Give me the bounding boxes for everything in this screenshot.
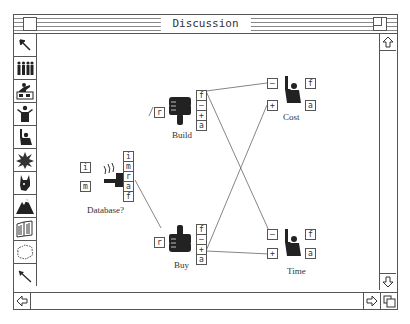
vertical-scrollbar[interactable]	[379, 34, 397, 290]
donkey-icon	[15, 174, 35, 192]
thumbs-up-icon	[167, 224, 193, 254]
shrug-figure-tool[interactable]	[14, 103, 36, 126]
open-book-icon	[15, 220, 35, 238]
scroll-right-button[interactable]	[363, 293, 380, 309]
mountain-tool[interactable]	[14, 195, 36, 218]
diagram-canvas[interactable]: i m i m r a f Database? r f – + a Build	[37, 34, 379, 292]
presenter-tool[interactable]	[14, 80, 36, 103]
raised-hand-figure-icon	[282, 229, 304, 257]
mountain-icon	[15, 197, 35, 215]
database-box-i[interactable]: i	[80, 162, 91, 173]
title-bar[interactable]: Discussion	[14, 15, 397, 34]
database-box-m[interactable]: m	[80, 181, 91, 192]
tool-palette	[14, 34, 37, 286]
database-box-f-out[interactable]: f	[123, 191, 134, 202]
build-box-r[interactable]: r	[154, 107, 165, 118]
buy-box-a[interactable]: a	[196, 254, 207, 265]
scroll-up-button[interactable]	[380, 34, 396, 51]
presenter-icon	[15, 82, 35, 100]
thumbs-down-icon	[167, 97, 193, 127]
build-box-a[interactable]: a	[196, 120, 207, 131]
shrug-figure-icon	[15, 105, 35, 123]
scroll-left-button[interactable]	[14, 293, 31, 309]
cost-box-f[interactable]: f	[305, 78, 316, 89]
arrow-right-icon	[366, 295, 378, 307]
scroll-down-button[interactable]	[380, 273, 396, 290]
cost-box-minus[interactable]: –	[267, 78, 278, 89]
horizontal-scrollbar[interactable]	[14, 292, 380, 309]
cloud-tool[interactable]	[14, 241, 36, 264]
group-people-icon	[15, 59, 35, 77]
link-arrow-icon	[17, 268, 33, 284]
buy-label: Buy	[174, 260, 189, 270]
cost-box-a[interactable]: a	[305, 100, 316, 111]
build-label: Build	[172, 130, 192, 140]
donkey-tool[interactable]	[14, 172, 36, 195]
book-tool[interactable]	[14, 218, 36, 241]
pointer-arrow-icon	[18, 38, 32, 52]
arrow-left-icon	[16, 295, 28, 307]
resize-icon	[383, 295, 396, 308]
time-label: Time	[287, 266, 306, 276]
burst-icon	[15, 151, 35, 169]
window-title: Discussion	[160, 17, 250, 31]
time-box-plus[interactable]: +	[267, 248, 278, 259]
arrow-down-icon	[382, 276, 394, 288]
time-box-minus[interactable]: –	[267, 229, 278, 240]
raised-hand-figure-icon	[15, 128, 35, 146]
database-label: Database?	[87, 205, 124, 215]
link-arrow-tool[interactable]	[14, 264, 36, 287]
cloud-icon	[15, 243, 35, 261]
burst-tool[interactable]	[14, 149, 36, 172]
cost-box-plus[interactable]: +	[267, 100, 278, 111]
time-box-a[interactable]: a	[305, 248, 316, 259]
discussion-window: Discussion i m	[13, 14, 398, 310]
raised-hand-figure-icon	[282, 76, 304, 104]
zoom-box[interactable]	[373, 17, 387, 31]
pointer-tool[interactable]	[14, 34, 36, 57]
arrow-up-icon	[382, 36, 394, 48]
close-box[interactable]	[23, 17, 37, 31]
group-tool[interactable]	[14, 57, 36, 80]
time-box-f[interactable]: f	[305, 229, 316, 240]
cost-label: Cost	[283, 112, 300, 122]
buy-box-r[interactable]: r	[154, 237, 165, 248]
grow-box[interactable]	[380, 292, 397, 309]
raised-hand-tool[interactable]	[14, 126, 36, 149]
